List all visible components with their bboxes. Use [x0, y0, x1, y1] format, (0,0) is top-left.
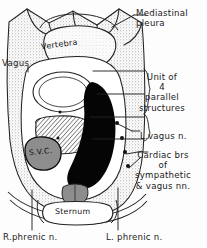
- label-vagus: Vagus: [2, 58, 29, 68]
- label-sternum: Sternum: [55, 207, 90, 216]
- label-left-phrenic-nerve: L. phrenic n.: [106, 232, 163, 242]
- label-mediastinal-pleura: Mediastinal pleura: [136, 8, 188, 28]
- mediastinum-diagram: Mediastinal pleura Unit of 4 parallel st…: [0, 0, 207, 248]
- label-left-vagus-nerve: L.vagus n.: [140, 131, 187, 141]
- anatomy-illustration: [0, 0, 207, 248]
- label-cardiac-branches: Cardiac brs of sympathetic & vagus nn.: [120, 150, 206, 191]
- label-right-phrenic-nerve: R.phrenic n.: [3, 232, 57, 242]
- label-unit-of-4-parallel-structures: Unit of 4 parallel structures: [118, 72, 206, 113]
